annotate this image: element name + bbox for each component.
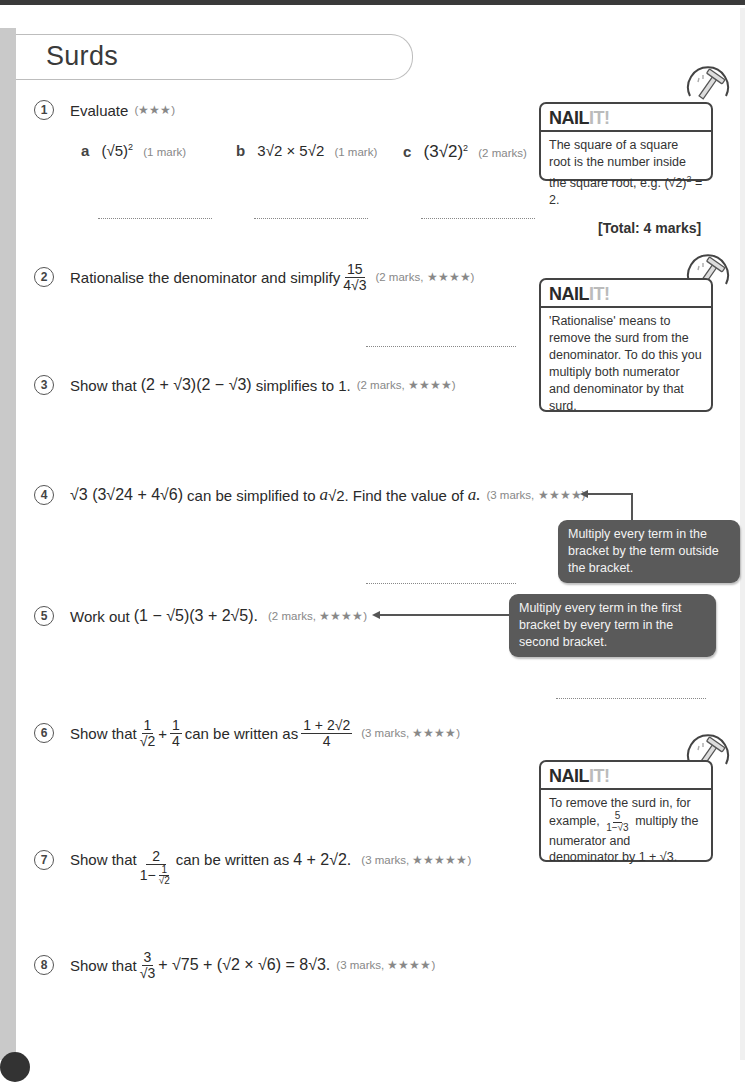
page-edge [740, 8, 745, 1060]
part-marks: (2 marks) [478, 147, 527, 159]
denominator: 4√3 [343, 278, 366, 293]
question-text-after: Find the value of [353, 487, 464, 504]
exponent: 2 [463, 143, 468, 153]
tip-arrow-line-1b [631, 493, 633, 520]
question-5: 5 Work out (1 − √5)(3 + 2√5). (2 marks, … [34, 606, 367, 626]
answer-line-2[interactable] [366, 346, 516, 347]
nail-it-box-3: NAILIT! To remove the surd in, for examp… [539, 760, 713, 862]
question-marks: (3 marks, ★★★★) [361, 726, 460, 740]
question-marks: (2 marks, ★★★★) [268, 609, 367, 623]
answer-line-1c[interactable] [421, 218, 535, 219]
question-1: 1 Evaluate (★★★) [34, 100, 175, 120]
question-marks: (★★★) [134, 103, 175, 117]
question-3: 3 Show that (2 + √3)(2 − √3) simplifies … [34, 375, 456, 395]
answer-line-4[interactable] [366, 583, 516, 584]
question-8: 8 Show that 3 √3 + √75 + (√2 × √6) = 8√3… [34, 950, 435, 980]
nail-it-text: 'Rationalise' means to remove the surd f… [541, 308, 711, 420]
question-text: Work out [70, 608, 130, 625]
expression: + √75 + (√2 × √6) = 8√3. [158, 956, 330, 974]
tip-box-1: Multiply every term in the bracket by th… [558, 520, 740, 583]
answer-line-1a[interactable] [98, 218, 212, 219]
tip-arrow-line-2 [380, 614, 510, 616]
fraction-2: 1 4 [170, 718, 182, 748]
title-banner: Surds [16, 34, 413, 80]
nail-it-text: To remove the surd in, for example, 5 1−… [541, 790, 711, 870]
question-1-part-a: a (√5)2 (1 mark) [81, 142, 186, 159]
inner-denominator: √2 [159, 876, 170, 887]
question-text: Evaluate [70, 102, 128, 119]
page-title: Surds [46, 41, 118, 72]
top-rule [0, 0, 745, 5]
expression: (1 − √5)(3 + 2√5). [134, 607, 258, 625]
numerator: 5 [613, 811, 623, 823]
nail-it-header: NAILIT! [541, 104, 711, 132]
question-text-mid: can be written as [176, 851, 289, 868]
complex-fraction: 2 1− 1 √2 [140, 849, 173, 887]
denominator: 1− 1 √2 [140, 865, 173, 887]
question-marks: (2 marks, ★★★★) [375, 270, 474, 284]
tip-fraction: 5 1−√3 [606, 811, 628, 833]
question-7: 7 Show that 2 1− 1 √2 can be written as … [34, 833, 471, 887]
brand-nail: NAIL [549, 766, 589, 786]
fraction: 3 √3 [140, 950, 155, 980]
question-number: 3 [34, 375, 54, 395]
question-marks: (3 marks, ★★★★) [486, 488, 585, 502]
question-text: Rationalise the denominator and simplify [70, 269, 340, 286]
question-number: 5 [34, 606, 54, 626]
question-number: 1 [34, 100, 54, 120]
part-marks: (1 mark) [334, 146, 377, 158]
expression-2: √2. [328, 487, 349, 504]
brand-nail: NAIL [549, 108, 589, 128]
answer-line-1b[interactable] [254, 218, 368, 219]
question-2: 2 Rationalise the denominator and simpli… [34, 262, 474, 292]
question-4: 4 √3 (3√24 + 4√6) can be simplified to a… [34, 485, 585, 505]
expression: 4 + 2√2. [293, 851, 351, 869]
part-expression: (3√2) [424, 142, 464, 161]
question-6: 6 Show that 1 √2 + 1 4 can be written as… [34, 718, 460, 748]
numerator: 2 [146, 849, 166, 865]
plus-sign: + [158, 725, 167, 742]
nail-it-box-1: NAILIT! The square of a square root is t… [539, 102, 713, 181]
numerator: 3 [142, 950, 154, 966]
nail-it-header: NAILIT! [541, 762, 711, 790]
fraction-3: 1 + 2√2 4 [301, 718, 352, 748]
numerator: 1 [170, 718, 182, 734]
exponent: 2 [128, 142, 133, 152]
question-number: 7 [34, 850, 54, 870]
question-1-part-b: b 3√2 × 5√2 (1 mark) [236, 142, 377, 159]
question-number: 2 [34, 267, 54, 287]
denominator: 1−√3 [606, 823, 628, 834]
brand-it: IT! [589, 108, 610, 128]
question-number: 8 [34, 955, 54, 975]
denominator: 4 [172, 734, 180, 749]
nail-it-text: The square of a square root is the numbe… [541, 132, 711, 214]
numerator: 15 [345, 262, 365, 278]
brand-it: IT! [589, 284, 610, 304]
denominator: √2 [140, 734, 155, 749]
numerator: 1 + 2√2 [301, 718, 352, 734]
inner-fraction: 1 √2 [159, 865, 170, 887]
numerator: 1 [142, 718, 154, 734]
part-label: b [236, 142, 245, 159]
brand-it: IT! [589, 766, 610, 786]
tip-expression: (√2) [664, 176, 686, 190]
nail-it-header: NAILIT! [541, 280, 711, 308]
question-marks: (3 marks, ★★★★) [336, 958, 435, 972]
part-expression: 3√2 × 5√2 [257, 142, 324, 159]
answer-line-5[interactable] [556, 698, 706, 699]
question-text: Show that [70, 957, 137, 974]
question-1-part-c: c (3√2)2 (2 marks) [403, 142, 527, 162]
side-strip [0, 28, 16, 1060]
denominator-prefix: 1− [140, 868, 156, 883]
tip-box-2: Multiply every term in the first bracket… [509, 594, 716, 657]
question-text: Show that [70, 851, 137, 868]
question-number: 4 [34, 485, 54, 505]
tip-arrow-head-2 [372, 611, 380, 619]
question-number: 6 [34, 723, 54, 743]
part-label: c [403, 143, 411, 160]
nail-it-box-2: NAILIT! 'Rationalise' means to remove th… [539, 278, 713, 412]
fraction-1: 1 √2 [140, 718, 155, 748]
variable: a [319, 485, 328, 505]
fraction: 15 4√3 [343, 262, 366, 292]
denominator: √3 [140, 966, 155, 981]
